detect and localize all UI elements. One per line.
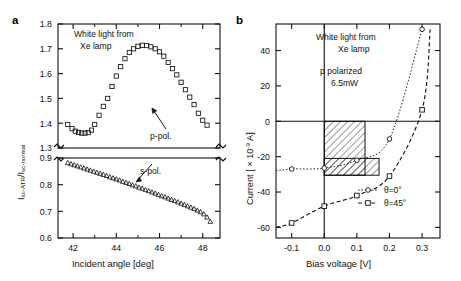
data-marker-square	[93, 122, 97, 126]
data-marker-square	[97, 113, 101, 117]
ylabel-b-part1: Current [ × 10	[245, 149, 255, 205]
panel-a-s-pol-label: s-pol.	[140, 166, 161, 176]
panel-b-ytick-label: 0	[265, 117, 270, 127]
data-marker-square	[101, 104, 105, 108]
panel-b-xtick-label: 0.1	[351, 243, 363, 253]
data-marker-square	[289, 221, 294, 226]
axis-break-mark	[54, 144, 64, 148]
panel-a-x-axis-label: Incident angle [deg]	[72, 258, 154, 269]
data-marker-square	[179, 80, 183, 84]
data-marker-square	[355, 193, 360, 198]
data-marker-triangle	[208, 219, 213, 223]
ylabel-b-part2: A]	[245, 132, 255, 143]
data-marker-square	[127, 50, 131, 54]
legend-marker-circle	[366, 188, 371, 193]
panel-a-source-line2: Xe lamp	[80, 41, 112, 51]
panel-b-hatched-regions	[324, 121, 379, 175]
panel-a-xtick-label: 46	[155, 243, 165, 253]
ylabel-a-sub2: sc-normal	[19, 145, 26, 172]
legend-label-1: θ=45°	[384, 198, 406, 208]
panel-b-xtick-label: 0.3	[416, 243, 428, 253]
figure-container: a 424446481.81.71.61.51.41.30.90.80.70.6…	[0, 0, 461, 281]
data-marker-square	[110, 84, 114, 88]
data-marker-square	[183, 88, 187, 92]
data-marker-square	[170, 67, 174, 71]
data-marker-square	[114, 74, 118, 78]
panel-a-ytick-label: 1.7	[40, 44, 52, 54]
panel-a-ytick-label: 1.8	[40, 19, 52, 29]
legend-label-0: θ=0°	[384, 185, 402, 195]
panel-b-x-axis-label: Bias voltage [V]	[306, 258, 371, 269]
data-marker-square	[157, 50, 161, 54]
data-marker-square	[166, 60, 170, 64]
panel-a-ytick-label: 0.6	[40, 233, 52, 243]
panel-a-ytick-label: 0.7	[40, 207, 52, 217]
ylabel-b-exp: -9	[244, 143, 251, 149]
data-marker-circle	[289, 167, 294, 172]
data-marker-circle	[322, 166, 327, 171]
panel-a-source-line1: White light from	[74, 29, 134, 39]
panel-a-ytick-label: 1.3	[40, 143, 52, 153]
data-marker-square	[132, 47, 136, 51]
panel-b-ytick-label: 40	[260, 46, 270, 56]
data-marker-square	[123, 57, 127, 61]
panel-a-plot: 424446481.81.71.61.51.41.30.90.80.70.6	[0, 0, 230, 281]
data-marker-circle	[420, 27, 425, 32]
data-marker-square	[201, 118, 205, 122]
panel-a-xtick-label: 48	[198, 243, 208, 253]
ylabel-a-part2: /I	[16, 172, 26, 177]
ylabel-a-part1: I	[16, 197, 26, 200]
data-marker-square	[140, 43, 144, 47]
data-marker-square	[175, 73, 179, 77]
data-marker-square	[119, 65, 123, 69]
panel-a-graphics: 424446481.81.71.61.51.41.30.90.80.70.6	[40, 19, 226, 253]
data-marker-square	[136, 44, 140, 48]
panel-b-xtick-label: -0.1	[284, 243, 299, 253]
panel-b-ytick-label: -40	[257, 187, 270, 197]
panel-a-xtick-label: 44	[111, 243, 121, 253]
panel-b-polarization-line2: 6.5mW	[331, 78, 358, 88]
panel-b-xtick-label: 0.0	[318, 243, 330, 253]
panel-a-ytick-label: 1.6	[40, 69, 52, 79]
panel-a: a 424446481.81.71.61.51.41.30.90.80.70.6…	[0, 0, 230, 281]
data-marker-circle	[355, 158, 360, 163]
data-marker-square	[106, 96, 110, 100]
data-marker-square	[205, 123, 209, 127]
data-marker-square	[420, 107, 425, 112]
panel-a-p-pol-label: p-pol.	[150, 131, 172, 141]
panel-b-xtick-label: 0.2	[383, 243, 395, 253]
p-pol-arrow-head	[152, 108, 157, 113]
panel-a-ytick-label: 0.8	[40, 180, 52, 190]
data-marker-square	[153, 47, 157, 51]
data-marker-square	[192, 103, 196, 107]
panel-b-ytick-label: 20	[260, 81, 270, 91]
panel-a-y-axis-label: Isc-ATR/Isc-normal	[16, 145, 26, 200]
panel-b-ytick-label: -60	[257, 223, 270, 233]
panel-b-polarization-line1: p polarized	[320, 66, 362, 76]
panel-a-series-s-pol	[65, 160, 212, 223]
panel-a-ytick-label: 1.4	[40, 119, 52, 129]
data-marker-square	[149, 45, 153, 49]
ylabel-a-sub1: sc-ATR	[19, 177, 26, 197]
data-marker-square	[188, 95, 192, 99]
panel-a-ytick-label: 1.5	[40, 94, 52, 104]
panel-b: b -0.10.00.10.20.340200-20-40-60θ=0°θ=45…	[228, 0, 461, 281]
panel-b-source-line2: Xe lamp	[338, 44, 370, 54]
panel-a-ytick-label: 0.9	[40, 153, 52, 163]
panel-b-source-line1: White light from	[316, 32, 376, 42]
data-marker-square	[144, 43, 148, 47]
data-marker-square	[162, 54, 166, 58]
legend-marker-square	[366, 201, 371, 206]
data-marker-circle	[387, 137, 392, 142]
panel-b-y-axis-label: Current [ × 10-9 A]	[244, 132, 255, 205]
data-marker-square	[196, 111, 200, 115]
data-marker-square	[322, 204, 327, 209]
panel-a-series-p-pol	[66, 43, 210, 135]
panel-b-ytick-label: -20	[257, 152, 270, 162]
data-marker-square	[387, 174, 392, 179]
panel-a-xtick-label: 42	[68, 243, 78, 253]
panel-a-svg: 424446481.81.71.61.51.41.30.90.80.70.6	[0, 0, 230, 281]
panel-b-legend[interactable]: θ=0°θ=45°	[358, 185, 406, 208]
hatched-rect	[324, 158, 379, 175]
axis-break-mark	[216, 144, 226, 148]
